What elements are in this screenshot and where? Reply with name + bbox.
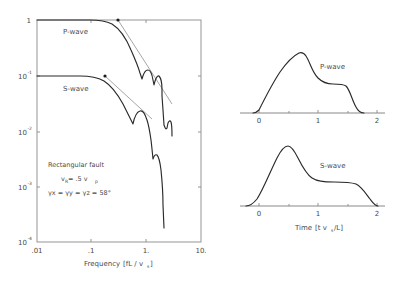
y-tick-label: 10 bbox=[18, 129, 27, 137]
time-axis-title-main: Time bbox=[294, 224, 312, 232]
parameter-annotation: Rectangular fault v R = .5 v p γx = γy =… bbox=[48, 161, 111, 197]
x-tick-label: 0 bbox=[257, 117, 261, 125]
x-axis-title-units: [fL / v bbox=[123, 260, 143, 268]
time-axis-title-units: [t v bbox=[315, 224, 327, 232]
s-wave-asymptote bbox=[105, 76, 152, 119]
annotation-velocity-sub2: p bbox=[95, 179, 98, 184]
spectra-plot: 1 10 -1 10 -2 10 -3 10 -4 .01 .1 1. 10. … bbox=[18, 17, 206, 269]
x-tick-label: 1 bbox=[316, 210, 320, 218]
y-tick-exponent: -1 bbox=[28, 70, 33, 75]
y-tick-exponent: -3 bbox=[28, 181, 33, 186]
p-wave-pulse bbox=[253, 53, 364, 113]
annotation-velocity-rest: = .5 v bbox=[68, 175, 88, 183]
x-tick-label: .1 bbox=[88, 247, 95, 255]
y-tick-label: 10 bbox=[18, 184, 27, 192]
x-axis-title: Frequency [fL / v s ] bbox=[84, 260, 153, 269]
time-pulses-plot: 0 1 2 P-wave 0 1 2 S-wave Time [t v s /L… bbox=[240, 53, 385, 233]
p-wave-asymptote bbox=[118, 20, 172, 104]
annotation-title: Rectangular fault bbox=[48, 161, 104, 169]
p-wave-pulse-label: P-wave bbox=[320, 63, 345, 71]
y-tick-exponent: -2 bbox=[28, 126, 33, 131]
s-wave-corner-marker bbox=[103, 74, 106, 77]
y-tick-label: 10 bbox=[18, 239, 27, 247]
x-tick-label: 1. bbox=[143, 247, 150, 255]
figure: 1 10 -1 10 -2 10 -3 10 -4 .01 .1 1. 10. … bbox=[0, 0, 406, 281]
y-tick-label: 10 bbox=[18, 73, 27, 81]
y-tick-exponent: -4 bbox=[28, 236, 33, 241]
annotation-angles: γx = γy = γz = 58° bbox=[48, 189, 111, 197]
x-tick-label: 1 bbox=[316, 117, 320, 125]
x-axis-title-close: ] bbox=[150, 260, 153, 268]
time-axis-title: Time [t v s /L] bbox=[294, 224, 343, 233]
x-tick-label: 2 bbox=[375, 210, 379, 218]
y-tick-label: 1 bbox=[27, 17, 31, 25]
plot-frame bbox=[37, 20, 201, 242]
p-wave-corner-marker bbox=[116, 18, 119, 21]
time-axis-title-close: /L] bbox=[334, 224, 343, 232]
s-wave-pulse bbox=[246, 146, 378, 206]
s-wave-label: S-wave bbox=[63, 85, 88, 93]
x-tick-label: 0 bbox=[257, 210, 261, 218]
x-axis-title-main: Frequency bbox=[84, 260, 120, 268]
x-tick-label: 2 bbox=[375, 117, 379, 125]
x-tick-label: .01 bbox=[31, 247, 42, 255]
s-wave-spectrum bbox=[37, 76, 164, 228]
s-wave-pulse-label: S-wave bbox=[320, 162, 345, 170]
p-wave-label: P-wave bbox=[63, 28, 88, 36]
x-tick-label: 10. bbox=[195, 247, 206, 255]
